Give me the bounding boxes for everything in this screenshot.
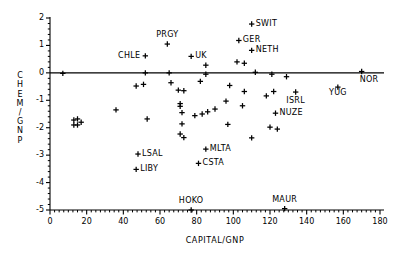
data-point xyxy=(223,98,228,103)
data-point xyxy=(181,135,186,140)
data-point xyxy=(212,106,217,111)
data-point-hoko xyxy=(188,207,193,212)
y-axis-title-char: P xyxy=(14,136,26,145)
data-point xyxy=(242,61,247,66)
data-point-neth xyxy=(249,48,254,53)
data-point xyxy=(177,104,182,109)
y-tick-label: 1 xyxy=(28,41,44,49)
x-tick-label: 20 xyxy=(82,218,92,226)
point-label-nuze: NUZE xyxy=(280,109,303,117)
point-label-uk: UK xyxy=(195,52,207,60)
data-point xyxy=(240,103,245,108)
point-label-csta: CSTA xyxy=(203,159,225,167)
y-axis-title-char: M xyxy=(14,99,26,108)
data-point xyxy=(177,131,182,136)
data-point xyxy=(168,80,173,85)
data-point xyxy=(205,109,210,114)
data-point xyxy=(143,70,148,75)
data-point xyxy=(199,111,204,116)
data-point xyxy=(192,113,197,118)
point-label-liby: LIBY xyxy=(140,165,158,173)
point-label-yug: YUG xyxy=(329,89,347,97)
data-point-isrl xyxy=(293,89,298,94)
data-point xyxy=(253,70,258,75)
y-tick-label: -5 xyxy=(28,206,44,214)
data-point-liby xyxy=(133,167,138,172)
data-point xyxy=(227,83,232,88)
data-point xyxy=(71,117,76,122)
data-point xyxy=(275,126,280,131)
point-label-mlta: MLTA xyxy=(210,145,231,153)
data-point xyxy=(249,135,254,140)
data-point-csta xyxy=(196,161,201,166)
data-point xyxy=(267,124,272,129)
data-point xyxy=(144,116,149,121)
y-tick-label: 0 xyxy=(28,69,44,77)
data-point xyxy=(179,121,184,126)
point-label-isrl: ISRL xyxy=(286,97,305,105)
x-axis-title: CAPITAL/GNP xyxy=(186,236,245,245)
point-label-swit: SWIT xyxy=(256,20,277,28)
data-point-chle xyxy=(143,53,148,58)
x-tick-label: 0 xyxy=(47,218,52,226)
data-point xyxy=(141,82,146,87)
data-point-prgy xyxy=(165,41,170,46)
y-axis-title-char: C xyxy=(14,71,26,80)
point-label-lsal: LSAL xyxy=(142,150,163,158)
data-point xyxy=(271,89,276,94)
y-tick-label: -4 xyxy=(28,179,44,187)
y-axis-title: CHEM/GNP xyxy=(14,71,26,145)
data-point xyxy=(242,89,247,94)
point-label-nor: NOR xyxy=(360,76,379,84)
x-tick-label: 180 xyxy=(372,218,387,226)
point-label-maur: MAUR xyxy=(272,196,297,204)
y-tick-label: -2 xyxy=(28,124,44,132)
y-tick-label: -3 xyxy=(28,151,44,159)
y-tick-label: 2 xyxy=(28,14,44,22)
data-point xyxy=(60,71,65,76)
x-tick-label: 120 xyxy=(262,218,277,226)
data-point xyxy=(203,62,208,67)
point-label-ger: GER xyxy=(243,36,261,44)
data-point xyxy=(179,110,184,115)
data-point-lsal xyxy=(135,151,140,156)
data-point xyxy=(264,93,269,98)
data-point xyxy=(75,122,80,127)
x-tick-label: 60 xyxy=(155,218,165,226)
point-label-chle: CHLE xyxy=(118,52,140,60)
y-axis-title-char: / xyxy=(14,108,26,117)
data-point xyxy=(181,88,186,93)
y-axis-title-char: N xyxy=(14,126,26,135)
point-label-prgy: PRGY xyxy=(156,31,178,39)
x-tick-label: 40 xyxy=(118,218,128,226)
data-point-mlta xyxy=(203,146,208,151)
y-axis-title-char: E xyxy=(14,90,26,99)
data-point xyxy=(225,122,230,127)
data-point-swit xyxy=(249,21,254,26)
data-point xyxy=(198,79,203,84)
x-tick-label: 160 xyxy=(336,218,351,226)
data-point xyxy=(234,59,239,64)
data-point xyxy=(113,107,118,112)
data-point xyxy=(166,70,171,75)
x-tick-label: 140 xyxy=(299,218,314,226)
point-label-neth: NETH xyxy=(256,46,279,54)
data-point-nuze xyxy=(273,110,278,115)
scatter-plot-figure: 020406080100120140160180210-1-2-3-4-5 SW… xyxy=(0,0,407,262)
y-axis-title-char: G xyxy=(14,117,26,126)
data-point xyxy=(284,74,289,79)
data-point-uk xyxy=(188,54,193,59)
data-point xyxy=(176,87,181,92)
data-point xyxy=(78,120,83,125)
y-axis-title-char: H xyxy=(14,80,26,89)
y-tick-label: -1 xyxy=(28,96,44,104)
x-tick-label: 100 xyxy=(226,218,241,226)
data-point-ger xyxy=(236,38,241,43)
x-tick-label: 80 xyxy=(192,218,202,226)
data-point xyxy=(75,116,80,121)
point-label-hoko: HOKO xyxy=(179,197,204,205)
data-point xyxy=(133,83,138,88)
